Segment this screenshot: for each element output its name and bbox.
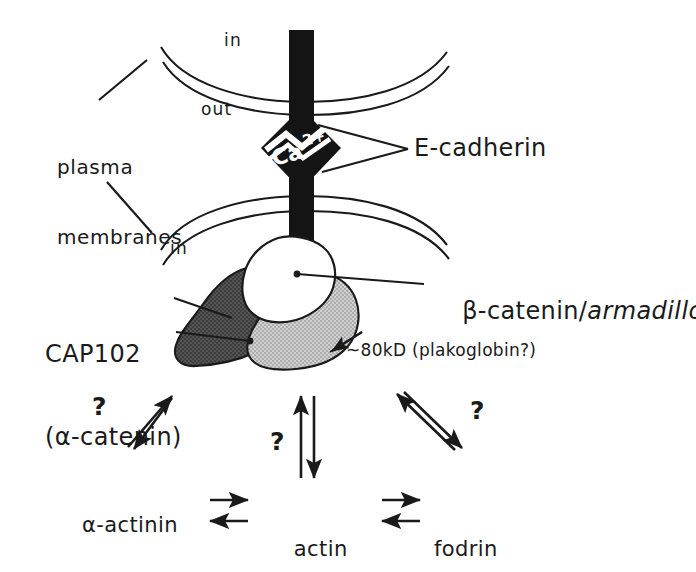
left-protein-0: α-actinin bbox=[82, 513, 178, 537]
top-membrane-out-label: out bbox=[201, 100, 232, 120]
question-mark-right: ? bbox=[470, 396, 485, 425]
cap102-line1: CAP102 bbox=[45, 341, 182, 369]
armadillo-text: armadillo bbox=[587, 297, 696, 325]
plasma-membranes-line1: plasma bbox=[57, 156, 182, 179]
cell-adhesion-diagram: Ca 2+ bbox=[0, 0, 696, 572]
right-arrow-down bbox=[404, 392, 462, 448]
alpha-catenin-leader-dot bbox=[247, 338, 254, 345]
plasma-membranes-line2: membranes bbox=[57, 226, 182, 249]
center-vertical-arrows bbox=[301, 396, 314, 478]
e-cadherin-label: E-cadherin bbox=[414, 135, 547, 163]
left-protein-list: α-actinin vinculin radixin tenuin bbox=[82, 464, 178, 572]
actin-line1: actin bbox=[270, 537, 371, 561]
right-protein-0: fodrin bbox=[434, 537, 515, 561]
right-protein-list: fodrin ankyrin bbox=[434, 488, 515, 572]
question-mark-center: ? bbox=[270, 427, 285, 456]
right-horizontal-arrows bbox=[382, 500, 420, 521]
plasma-membranes-label: plasma membranes bbox=[57, 110, 182, 296]
left-horizontal-arrows bbox=[210, 500, 248, 521]
beta-catenin-leader-dot bbox=[294, 271, 301, 278]
plakoglobin-label: ~80kD (plakoglobin?) bbox=[346, 341, 536, 361]
right-arrow-up bbox=[397, 394, 455, 450]
question-mark-left: ? bbox=[92, 392, 107, 421]
cap102-line2: (α-catenin) bbox=[45, 424, 182, 452]
beta-catenin-text: β-catenin/ bbox=[462, 297, 587, 325]
top-membrane-in-label: in bbox=[224, 31, 242, 51]
actin-filaments-label: actin filaments bbox=[270, 488, 371, 572]
right-diagonal-arrows bbox=[397, 392, 462, 450]
